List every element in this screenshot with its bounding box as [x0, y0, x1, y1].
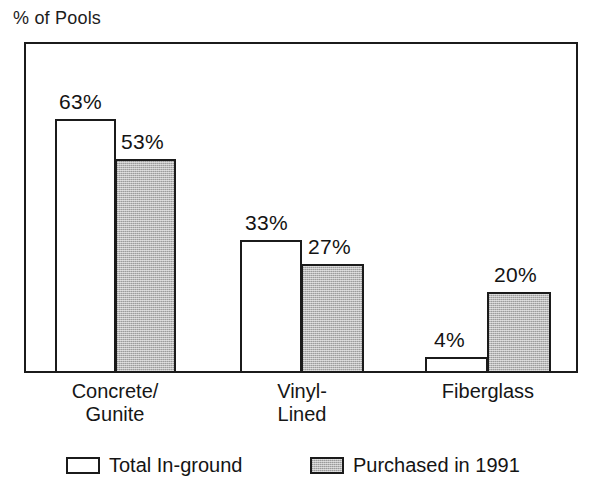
legend-swatch-white-icon [66, 457, 100, 474]
category-label-fiberglass: Fiberglass [408, 380, 568, 403]
legend-item-purchased-1991: Purchased in 1991 [310, 454, 520, 477]
category-label-line2: Gunite [35, 403, 195, 426]
category-label-line2: Lined [222, 403, 382, 426]
chart-page: % of Pools 63% 53% 33% 27% 4% 20% Concre… [0, 0, 591, 496]
chart-legend: Total In-ground Purchased in 1991 [0, 448, 591, 488]
category-label-concrete-gunite: Concrete/ Gunite [35, 380, 195, 426]
category-label-line1: Concrete/ [35, 380, 195, 403]
legend-item-total-in-ground: Total In-ground [66, 454, 242, 477]
legend-label-purchased-1991: Purchased in 1991 [353, 454, 520, 477]
category-label-line1: Fiberglass [408, 380, 568, 403]
category-label-line1: Vinyl- [222, 380, 382, 403]
legend-label-total-in-ground: Total In-ground [109, 454, 242, 477]
y-axis-title: % of Pools [13, 8, 101, 29]
legend-swatch-gray-icon [310, 457, 344, 474]
plot-area-frame [24, 42, 578, 373]
category-label-vinyl-lined: Vinyl- Lined [222, 380, 382, 426]
